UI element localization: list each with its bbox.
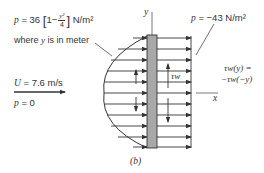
y-squared-over-4: y²4 bbox=[58, 13, 65, 28]
left-pressure-equation: p = 36 [1−y²4] N/m² bbox=[14, 13, 93, 28]
left-pressure-arrows bbox=[104, 38, 147, 147]
figure-caption: (b) bbox=[130, 157, 141, 167]
right-pressure-label: p = −43 N/m² bbox=[191, 13, 246, 24]
free-stream-pressure: p = 0 bbox=[14, 98, 35, 109]
right-leader-line bbox=[196, 24, 214, 55]
left-p-units: N/m² bbox=[70, 14, 93, 25]
shear-symmetry-line2: −τw(−y) bbox=[221, 75, 252, 84]
shear-stress-label: τw bbox=[171, 72, 180, 81]
shear-symmetry-line1: τw(y) = bbox=[224, 64, 252, 73]
one-minus: 1− bbox=[46, 14, 57, 25]
left-leader-line bbox=[95, 43, 112, 56]
x-axis-label: x bbox=[213, 94, 217, 104]
right-pressure-arrows bbox=[157, 38, 191, 147]
free-stream-velocity: U = 7.6 m/s bbox=[14, 78, 63, 89]
left-pressure-note: where y is in meter bbox=[14, 36, 89, 45]
left-pressure-curve bbox=[104, 36, 147, 148]
y-axis-label: y bbox=[144, 8, 148, 18]
left-p-equals: = 36 bbox=[19, 14, 43, 25]
plate bbox=[147, 35, 157, 148]
